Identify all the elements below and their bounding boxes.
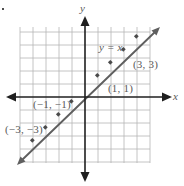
y-axis-arrow-down: [81, 172, 90, 182]
graph-canvas: [0, 0, 184, 186]
point-label-neg1-neg1: (−1, −1): [33, 99, 71, 110]
x-axis-arrow-left: [6, 93, 16, 102]
y-axis-arrow-up: [81, 16, 90, 26]
point-label-3-3: (3, 3): [133, 59, 158, 70]
coordinate-plane-figure: y x y = x (3, 3) (1, 1) (−1, −1) (−3, −3…: [0, 0, 184, 186]
axis-arrowheads: [6, 16, 172, 182]
line-y-equals-x: [17, 27, 160, 165]
point-label-neg3-neg3: (−3, −3): [5, 124, 43, 135]
point-label-1-1: (1, 1): [108, 83, 133, 94]
x-axis-arrow-right: [162, 93, 172, 102]
equation-label: y = x: [99, 42, 123, 53]
x-axis-label: x: [173, 91, 178, 102]
y-axis-label: y: [80, 3, 85, 14]
